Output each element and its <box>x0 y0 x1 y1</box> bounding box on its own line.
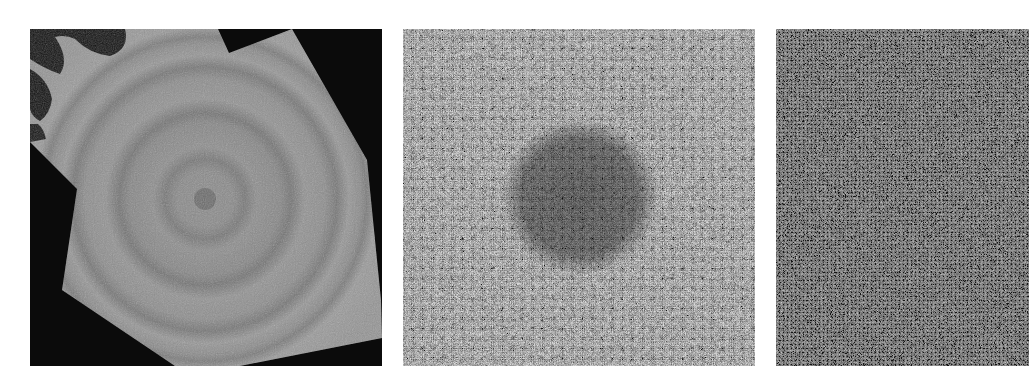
micrograph-figure <box>0 0 1029 386</box>
particle-noise-image <box>403 29 755 366</box>
micrograph-panel-granular <box>776 29 1029 366</box>
ring-pattern-image <box>30 29 382 366</box>
granular-texture-image <box>776 29 1029 366</box>
micrograph-panel-particle <box>403 29 755 366</box>
micrograph-panel-rings <box>30 29 382 366</box>
